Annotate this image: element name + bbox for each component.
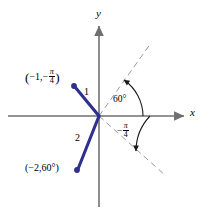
angle-arc-neg-pi-over-4 xyxy=(136,116,150,151)
segment-2-ray xyxy=(78,116,99,169)
x-axis-label: x xyxy=(190,107,195,118)
point-1-theta-fraction: π4 xyxy=(49,68,55,86)
angle-60-label: 60° xyxy=(113,95,126,105)
point-1-dot xyxy=(71,83,77,89)
angle-neg-fraction: π4 xyxy=(123,122,129,139)
segment-2-label: 2 xyxy=(75,133,80,143)
angle-neg-minus-sign: − xyxy=(117,126,122,136)
dashed-ray-neg-pi-over-4 xyxy=(99,116,166,176)
point-1-four: 4 xyxy=(49,77,55,85)
point-1-label: (−1,−π4) xyxy=(25,68,60,86)
dashed-ray-60deg xyxy=(99,43,151,116)
angle-neg-four: 4 xyxy=(123,131,129,139)
y-axis-label: y xyxy=(96,8,101,19)
angle-arc-60 xyxy=(124,80,143,116)
point-2-label: (−2,60°) xyxy=(25,163,59,173)
point-1-close-paren: ) xyxy=(55,71,59,84)
polar-coordinate-diagram: y x (−1,−π4) 1 2 (−2,60°) 60° −π4 xyxy=(0,0,217,213)
diagram-canvas xyxy=(0,0,217,213)
segment-1-label: 1 xyxy=(84,87,89,97)
angle-neg-pi-over-4-label: −π4 xyxy=(117,122,129,139)
point-1-radius: −1, xyxy=(29,71,42,82)
point-1-minus-sign: − xyxy=(43,71,49,82)
point-2-dot xyxy=(74,167,80,173)
